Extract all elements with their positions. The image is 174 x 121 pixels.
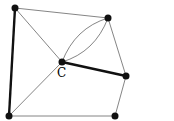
node-bl xyxy=(6,113,13,120)
node-r xyxy=(123,73,130,80)
node-c xyxy=(59,59,66,66)
edge-tl-tr xyxy=(15,8,108,18)
edge-c-r-bold xyxy=(62,62,126,76)
edge-c-tr-1 xyxy=(62,18,108,62)
node-tl xyxy=(12,5,19,12)
edge-c-bl xyxy=(9,62,62,116)
node-c-label: C xyxy=(57,66,66,80)
edge-tr-r xyxy=(108,18,126,76)
edge-r-br xyxy=(115,76,126,116)
edge-c-tr-2 xyxy=(62,18,108,62)
edge-tl-bl-bold xyxy=(9,8,15,116)
edge-tl-c xyxy=(15,8,62,62)
node-br xyxy=(112,113,119,120)
node-tr xyxy=(105,15,112,22)
graph-diagram xyxy=(0,0,174,121)
